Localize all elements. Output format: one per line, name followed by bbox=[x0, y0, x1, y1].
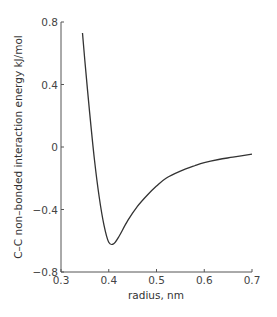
y-axis: 0.80.40−0.4−0.8 bbox=[33, 16, 65, 278]
y-axis-label: C–C non–bonded interaction energy kJ/mol bbox=[12, 35, 24, 258]
energy-curve bbox=[82, 33, 252, 245]
y-tick-label: 0.4 bbox=[41, 79, 58, 91]
x-tick-label: 0.5 bbox=[148, 274, 165, 286]
x-tick-label: 0.3 bbox=[53, 274, 70, 286]
x-tick-label: 0.4 bbox=[100, 274, 117, 286]
y-tick-label: −0.4 bbox=[33, 204, 59, 216]
x-axis: 0.30.40.50.60.7 bbox=[53, 269, 261, 286]
x-axis-label: radius, nm bbox=[128, 289, 184, 301]
y-tick-label: 0 bbox=[51, 141, 58, 153]
chart: 0.80.40−0.4−0.8 0.30.40.50.60.7 radius, … bbox=[0, 0, 277, 317]
x-tick-label: 0.6 bbox=[196, 274, 213, 286]
y-tick-label: 0.8 bbox=[41, 16, 58, 28]
x-tick-label: 0.7 bbox=[244, 274, 261, 286]
